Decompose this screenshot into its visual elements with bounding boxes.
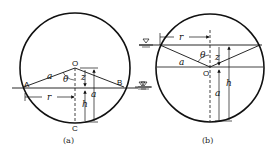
theta-label-a: θ xyxy=(63,74,69,84)
point-a-label: A xyxy=(24,80,30,89)
h-label-b: h xyxy=(226,78,232,88)
z-label-b: z xyxy=(214,52,220,62)
point-o-label-a: O xyxy=(72,59,78,68)
radius-label-b: a xyxy=(179,57,184,67)
radius-label-a: a xyxy=(47,71,52,81)
caption-b: (b) xyxy=(202,136,213,145)
point-b-label: B xyxy=(117,78,122,87)
r-label-b: r xyxy=(179,32,184,42)
r-label-a: r xyxy=(47,92,52,102)
point-c-label: C xyxy=(72,124,78,133)
a-dim-label-a: a xyxy=(91,89,96,99)
water-level-symbol-b-top xyxy=(139,39,153,47)
caption-a: (a) xyxy=(63,136,74,145)
point-o-label-b: O xyxy=(203,69,209,78)
panel-a: A B O C a θ z h a r (a) xyxy=(12,13,152,145)
a-dim-label-b: a xyxy=(215,88,220,98)
panel-b: O a θ z a h r (b) xyxy=(135,14,264,145)
figure-canvas: A B O C a θ z h a r (a) xyxy=(0,0,273,155)
h-label-a: h xyxy=(82,99,88,109)
theta-label-b: θ xyxy=(200,50,206,60)
z-label-a: z xyxy=(80,72,86,82)
